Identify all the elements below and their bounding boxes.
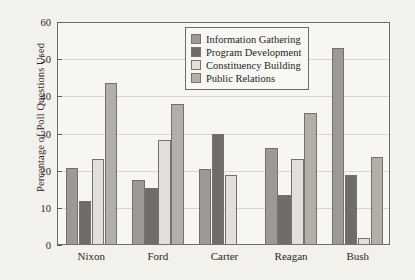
bar-group <box>132 23 184 245</box>
y-axis-tick-label: 20 <box>11 165 51 176</box>
y-axis-tick-mark <box>57 245 62 246</box>
bar <box>212 134 225 245</box>
bar <box>105 83 118 245</box>
bar-group <box>332 23 384 245</box>
bar-chart: Percentage of Poll Questions Used 010203… <box>0 0 415 280</box>
x-axis-label: Nixon <box>78 250 106 262</box>
bar <box>225 175 238 245</box>
bar <box>171 104 184 245</box>
bar <box>132 180 145 245</box>
bar <box>199 169 212 245</box>
bar-group <box>66 23 118 245</box>
bar <box>345 175 358 245</box>
bar <box>358 238 371 245</box>
legend-swatch-icon <box>191 47 201 57</box>
legend-swatch-icon <box>191 34 201 44</box>
legend-item: Public Relations <box>191 72 301 84</box>
bar <box>278 195 291 245</box>
legend-item: Information Gathering <box>191 33 301 45</box>
bar <box>332 48 345 245</box>
legend-swatch-icon <box>191 73 201 83</box>
y-axis-tick-label: 10 <box>11 202 51 213</box>
x-axis-label: Bush <box>346 250 369 262</box>
bar <box>79 201 92 245</box>
y-axis-tick-label: 40 <box>11 91 51 102</box>
legend-label: Information Gathering <box>206 34 301 45</box>
y-axis-tick-label: 30 <box>11 128 51 139</box>
bar <box>371 157 384 245</box>
bar <box>265 148 278 245</box>
bar <box>304 113 317 245</box>
y-axis-tick-label: 0 <box>11 240 51 251</box>
legend-label: Constituency Building <box>206 60 301 71</box>
bar <box>291 159 304 245</box>
x-axis-label: Ford <box>148 250 169 262</box>
legend-swatch-icon <box>191 60 201 70</box>
x-axis-label: Reagan <box>275 250 308 262</box>
legend: Information GatheringProgram Development… <box>185 27 309 90</box>
bar <box>92 159 105 245</box>
legend-item: Program Development <box>191 46 301 58</box>
bar <box>145 188 158 245</box>
legend-label: Program Development <box>206 47 301 58</box>
legend-item: Constituency Building <box>191 59 301 71</box>
x-axis-label: Carter <box>211 250 238 262</box>
legend-label: Public Relations <box>206 73 275 84</box>
bar <box>66 168 79 245</box>
y-axis-tick-label: 50 <box>11 54 51 65</box>
bar <box>158 140 171 245</box>
y-axis-tick-label: 60 <box>11 17 51 28</box>
